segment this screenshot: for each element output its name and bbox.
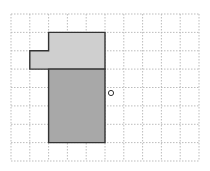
rotation-center-circle-icon bbox=[108, 90, 113, 95]
marker bbox=[108, 90, 113, 95]
dark-shape-bottom bbox=[49, 69, 105, 143]
light-shape-top bbox=[30, 32, 105, 69]
grid-diagram bbox=[0, 0, 210, 171]
